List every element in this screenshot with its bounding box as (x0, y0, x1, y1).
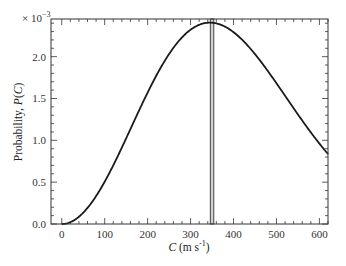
x-axis-label: C (m s-1) (168, 239, 209, 254)
y-axis-label: Probability, P(C) (12, 83, 25, 162)
x-tick-label: 100 (96, 228, 113, 240)
y-tick-label: 2.0 (32, 51, 46, 63)
x-tick-label: 0 (59, 228, 65, 240)
x-tick-label: 200 (139, 228, 156, 240)
x-tick-label: 300 (182, 228, 199, 240)
highlight-bar (210, 19, 213, 224)
y-axis-ticks: 0.00.51.01.52.0 (32, 23, 328, 230)
y-tick-label: 0.5 (32, 176, 46, 188)
x-tick-label: 500 (268, 228, 285, 240)
x-tick-label: 400 (225, 228, 242, 240)
distribution-curve (62, 23, 328, 224)
probability-distribution-chart: 0100200300400500600 0.00.51.01.52.0 × 10… (0, 0, 346, 266)
y-tick-label: 1.0 (32, 134, 46, 146)
x-tick-label: 600 (311, 228, 328, 240)
y-tick-label: 1.5 (32, 92, 46, 104)
x-axis-ticks: 0100200300400500600 (59, 19, 328, 240)
y-axis-multiplier: × 10−3 (22, 10, 50, 24)
y-tick-label: 0.0 (32, 218, 46, 230)
plot-frame (51, 19, 328, 224)
